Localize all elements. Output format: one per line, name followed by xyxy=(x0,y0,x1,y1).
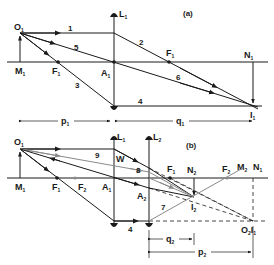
panel-a-tag: (a) xyxy=(183,9,193,18)
svg-text:F2: F2 xyxy=(222,164,231,175)
svg-text:7: 7 xyxy=(161,203,166,212)
svg-text:F1: F1 xyxy=(52,66,61,77)
panel-b: (b) L1 L2 O1 M1 F1 F2 A1 A2 W xyxy=(7,132,268,258)
lens-bottom-cap-icon xyxy=(145,223,153,227)
svg-text:N1: N1 xyxy=(244,50,254,61)
panel-b-tag: (b) xyxy=(186,141,197,150)
svg-text:M2: M2 xyxy=(237,162,248,173)
svg-text:W: W xyxy=(116,154,125,164)
svg-text:5: 5 xyxy=(74,43,79,52)
svg-text:4: 4 xyxy=(138,97,143,106)
svg-text:L1: L1 xyxy=(119,9,128,20)
svg-text:8: 8 xyxy=(136,166,141,175)
svg-text:I1: I1 xyxy=(250,110,256,121)
lens-top-cap-icon xyxy=(110,13,118,17)
lens-bottom-cap-icon xyxy=(110,106,118,110)
svg-text:A1: A1 xyxy=(102,182,112,193)
svg-text:F2: F2 xyxy=(78,182,87,193)
panel-a: (a) L1 O1 M1 N1 I1 F1 A1 F1 1 2 xyxy=(7,9,268,127)
optics-diagram: (a) L1 O1 M1 N1 I1 F1 A1 F1 1 2 xyxy=(0,0,274,265)
svg-text:1: 1 xyxy=(68,24,73,33)
lens-bottom-cap-icon xyxy=(110,223,118,227)
lens-l2-b xyxy=(145,136,153,227)
svg-text:F1: F1 xyxy=(166,48,175,59)
svg-text:9: 9 xyxy=(95,151,100,160)
svg-text:O1: O1 xyxy=(14,137,24,148)
ray-3-4-b xyxy=(20,149,149,221)
svg-text:M1: M1 xyxy=(15,182,26,193)
lens-l1-b xyxy=(110,136,118,227)
svg-text:M1: M1 xyxy=(15,66,26,77)
svg-text:6: 6 xyxy=(176,73,181,82)
svg-text:F1: F1 xyxy=(167,164,176,175)
svg-text:A2: A2 xyxy=(137,191,147,202)
svg-text:F1: F1 xyxy=(52,182,61,193)
svg-text:3: 3 xyxy=(75,81,80,90)
svg-text:N1: N1 xyxy=(253,162,263,173)
svg-text:2: 2 xyxy=(139,38,144,47)
svg-text:O2I1: O2I1 xyxy=(241,225,256,236)
lens-top-cap-icon xyxy=(145,136,153,140)
svg-text:I2: I2 xyxy=(191,202,197,213)
svg-text:O1: O1 xyxy=(14,22,24,33)
svg-text:A1: A1 xyxy=(101,68,111,79)
svg-text:L2: L2 xyxy=(153,132,162,143)
svg-text:4: 4 xyxy=(128,225,133,234)
svg-text:N2: N2 xyxy=(187,165,197,176)
svg-text:L1: L1 xyxy=(117,132,126,143)
